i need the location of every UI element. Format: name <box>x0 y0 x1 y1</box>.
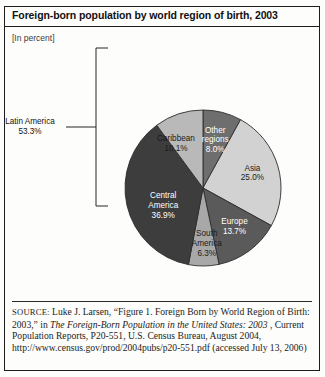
figure-title: Foreign-born population by world region … <box>12 9 312 22</box>
frame-top-rule <box>4 6 320 7</box>
source-divider-rule <box>12 301 312 302</box>
source-publication-title: The Foreign-Born Population in the Unite… <box>50 319 267 330</box>
slice-label-central-america: CentralAmerica36.9% <box>148 192 178 220</box>
pie-chart: Latin America53.3% Otherregions8.0%Asia2… <box>0 44 325 302</box>
frame-bottom-rule <box>4 370 320 371</box>
title-divider-rule <box>4 26 320 27</box>
latin-america-bracket <box>96 48 108 206</box>
source-label: SOURCE: <box>12 307 50 317</box>
slice-label-europe: Europe13.7% <box>221 217 248 236</box>
annotation-label-latin-america: Latin America53.3% <box>5 117 55 136</box>
figure-subtitle: [In percent] <box>12 33 55 43</box>
source-note: SOURCE: Luke J. Larsen, “Figure 1. Forei… <box>12 306 312 353</box>
figure-container: Foreign-born population by world region … <box>0 0 325 377</box>
pie-chart-area: Latin America53.3% Otherregions8.0%Asia2… <box>0 44 325 302</box>
pie-annotation-group: Latin America53.3% <box>5 48 108 206</box>
